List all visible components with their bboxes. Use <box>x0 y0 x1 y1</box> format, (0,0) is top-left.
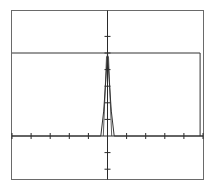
axes <box>12 11 203 180</box>
chart-plot <box>0 0 211 191</box>
pulse-inner-left <box>103 56 106 136</box>
pulse-inner-right <box>108 56 111 136</box>
